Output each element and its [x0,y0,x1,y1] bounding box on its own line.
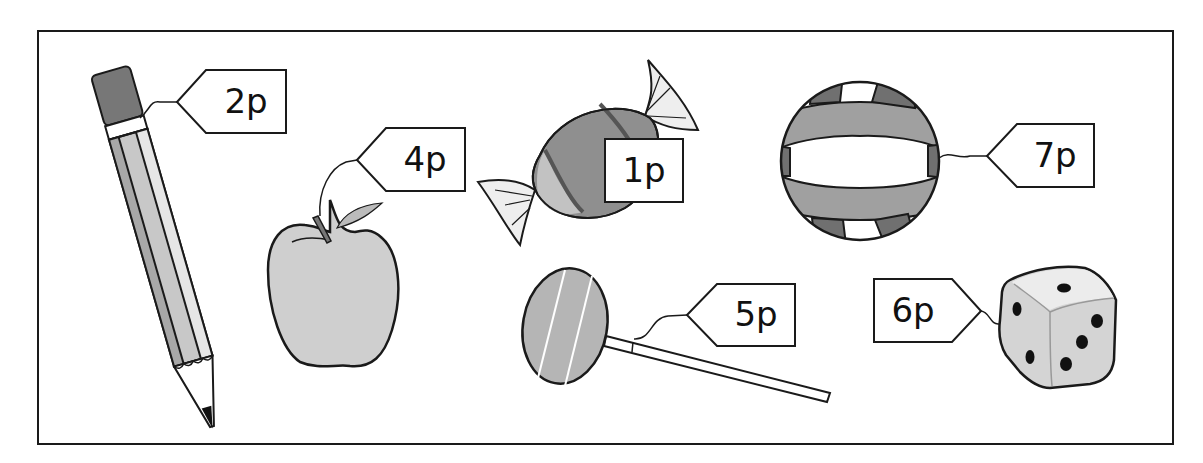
dice-item[interactable] [981,267,1116,388]
price-label: 5p [734,294,777,334]
price-tag-dice: 6p [874,279,981,342]
price-label: 7p [1033,135,1076,175]
price-tag-pencil: 2p [177,70,286,133]
price-tag-lollipop: 5p [687,284,795,346]
price-label: 1p [622,150,665,190]
price-tag-sweet: 1p [605,139,683,202]
pip [1060,357,1072,371]
ball-item[interactable] [778,82,987,245]
pip [1057,284,1071,293]
pip [1076,335,1088,349]
price-label: 6p [891,290,934,330]
price-tag-ball: 7p [987,124,1094,187]
pip [1091,314,1103,328]
pip [1026,350,1035,364]
price-tag-apple: 4p [357,128,465,191]
price-label: 2p [224,81,267,121]
apple-item[interactable] [268,160,398,366]
price-label: 4p [403,139,446,179]
pip [1013,302,1022,316]
